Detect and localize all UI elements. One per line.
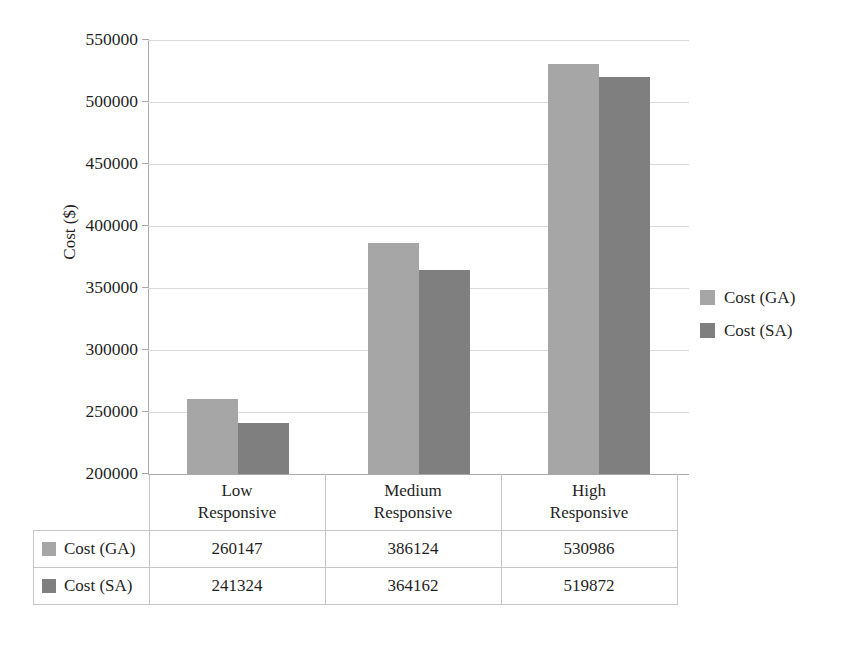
- category-label-line: Responsive: [326, 502, 501, 524]
- category-label-line: Responsive: [502, 502, 677, 524]
- table-column-header: HighResponsive: [501, 474, 677, 531]
- y-axis-tick-label: 550000: [46, 31, 138, 49]
- category-label-line: Medium: [326, 480, 501, 502]
- category-label-line: High: [502, 480, 677, 502]
- table-cell: 260147: [149, 531, 325, 568]
- y-axis-tick-label: 350000: [46, 279, 138, 297]
- series-swatch-icon: [42, 542, 56, 556]
- table-cell: 519872: [501, 568, 677, 605]
- table-series-name-cell: Cost (SA): [34, 568, 150, 605]
- data-table: LowResponsiveMediumResponsiveHighRespons…: [33, 474, 678, 605]
- legend-item-label: Cost (GA): [724, 288, 795, 308]
- series-swatch-icon: [42, 579, 56, 593]
- y-axis-tick-label: 500000: [46, 93, 138, 111]
- table-cell: 386124: [325, 531, 501, 568]
- category-label-line: Responsive: [150, 502, 325, 524]
- y-axis-tick-label: 300000: [46, 341, 138, 359]
- legend-item[interactable]: Cost (GA): [700, 281, 850, 314]
- series-name-label: Cost (GA): [64, 539, 135, 559]
- y-axis-tick-label: 400000: [46, 217, 138, 235]
- table-column-header: LowResponsive: [149, 474, 325, 531]
- legend-swatch-icon: [700, 323, 715, 338]
- table-header-row: LowResponsiveMediumResponsiveHighRespons…: [34, 474, 678, 531]
- table-column-header: MediumResponsive: [325, 474, 501, 531]
- table-series-name-cell: Cost (GA): [34, 531, 150, 568]
- legend-item-label: Cost (SA): [724, 321, 792, 341]
- table-corner-cell: [34, 474, 150, 531]
- y-axis-tick-label: 450000: [46, 155, 138, 173]
- bar: [238, 423, 289, 474]
- y-axis-tick-label: 250000: [46, 403, 138, 421]
- legend: Cost (GA)Cost (SA): [700, 281, 850, 347]
- legend-item[interactable]: Cost (SA): [700, 314, 850, 347]
- bar: [187, 399, 238, 474]
- table-cell: 364162: [325, 568, 501, 605]
- bar: [419, 270, 470, 474]
- table-cell: 530986: [501, 531, 677, 568]
- gridline: [148, 40, 689, 41]
- legend-swatch-icon: [700, 290, 715, 305]
- bar-chart: Cost ($) 5500005000004500004000003500003…: [0, 0, 857, 653]
- table-row: Cost (SA)241324364162519872: [34, 568, 678, 605]
- series-name-label: Cost (SA): [64, 576, 132, 596]
- table-row: Cost (GA)260147386124530986: [34, 531, 678, 568]
- bar: [599, 77, 650, 474]
- bar: [548, 64, 599, 474]
- category-label-line: Low: [150, 480, 325, 502]
- bar: [368, 243, 419, 474]
- table-cell: 241324: [149, 568, 325, 605]
- plot-area: [148, 40, 689, 474]
